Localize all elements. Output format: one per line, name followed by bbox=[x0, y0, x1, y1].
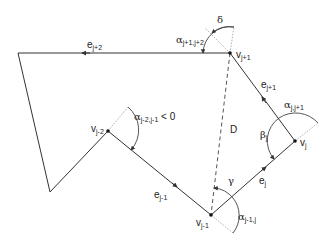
label-alpha-j2-j1: αj-2,j-1 < 0 bbox=[134, 112, 175, 123]
label-v-j-minus-2: vj-2 bbox=[91, 124, 104, 135]
label-v-j-plus-1: vj+1 bbox=[236, 50, 251, 61]
label-e-j-plus-1: ej+1 bbox=[261, 80, 276, 91]
vertex-dot-vj-1 bbox=[209, 213, 213, 217]
vertex-dot-vj-2 bbox=[106, 129, 110, 133]
label-e-j-minus-1: ej-1 bbox=[154, 190, 167, 201]
label-alpha-j1-j: αj-1,j bbox=[238, 212, 256, 223]
arc-delta bbox=[212, 27, 234, 33]
label-e-j: ej bbox=[259, 176, 266, 187]
diagonal-d bbox=[211, 53, 230, 215]
vertex-dot-vj1 bbox=[228, 51, 232, 55]
edge-arrow-e-j bbox=[261, 167, 266, 171]
arc-beta-j bbox=[267, 118, 279, 159]
label-gamma: γ bbox=[228, 176, 234, 186]
extension-line-vj1-delta bbox=[205, 28, 230, 53]
vertex-dot-vj bbox=[293, 139, 297, 143]
label-alpha-j-j1: αj,j+1 bbox=[284, 100, 304, 111]
arc-alpha-j-j1 bbox=[279, 113, 318, 123]
label-v-j: vj bbox=[300, 138, 307, 149]
label-beta-j: βj bbox=[260, 130, 267, 141]
label-delta: δ bbox=[217, 15, 223, 25]
arc-gamma bbox=[214, 188, 233, 198]
extension-line-vj1-up bbox=[230, 27, 234, 53]
label-e-j-plus-2: ej+2 bbox=[87, 40, 102, 51]
extension-line-vj-2 bbox=[108, 107, 128, 131]
extension-line-vj-1 bbox=[211, 215, 233, 233]
diagram-canvas: ej+2 ej+1 ej ej-1 vj+1 vj vj-1 vj-2 αj+1… bbox=[0, 0, 331, 245]
edge-arrow-e-j-plus-1 bbox=[262, 97, 266, 103]
label-d: D bbox=[230, 125, 237, 135]
label-alpha-j1-j2: αj+1,j+2 bbox=[176, 35, 204, 46]
edge-arrow-e-j-minus-1 bbox=[172, 183, 177, 187]
arc-alpha-j1-j2 bbox=[203, 27, 234, 53]
label-v-j-minus-1: vj-1 bbox=[196, 218, 209, 229]
